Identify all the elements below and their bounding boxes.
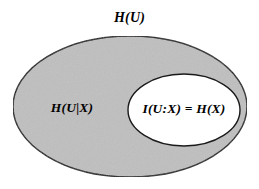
label-total-entropy: H(U) [0,11,259,25]
label-mutual-information: I(U:X) = H(X) [128,102,240,116]
label-conditional-entropy: H(U|X) [0,101,144,115]
entropy-venn-diagram: H(U) H(U|X) I(U:X) = H(X) [0,0,259,189]
venn-diagram-graphic [0,0,259,189]
